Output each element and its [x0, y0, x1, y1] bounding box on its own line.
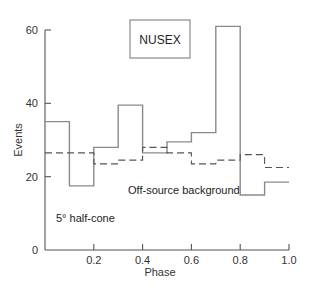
x-tick-label: 1.0: [281, 254, 296, 266]
axes: 02040600.20.40.60.81.0: [26, 24, 297, 266]
x-tick-label: 0.8: [233, 254, 248, 266]
on-source-step-line: [45, 26, 289, 195]
y-tick-label: 40: [26, 97, 38, 109]
half-cone-label: 5° half-cone: [56, 212, 115, 224]
histogram-chart: 02040600.20.40.60.81.0 NUSEX Off-source …: [0, 0, 310, 292]
x-tick-label: 0.2: [86, 254, 101, 266]
y-tick-label: 20: [26, 171, 38, 183]
x-tick-label: 0.4: [135, 254, 150, 266]
on-source-histogram: [45, 26, 289, 195]
y-axis-label: Events: [12, 123, 24, 157]
x-axis-label: Phase: [144, 266, 175, 278]
x-tick-label: 0.6: [184, 254, 199, 266]
y-tick-label: 60: [26, 24, 38, 36]
nusex-label: NUSEX: [139, 33, 180, 47]
y-tick-label: 0: [32, 244, 38, 256]
off-source-background-label: Off-source background: [128, 184, 240, 196]
